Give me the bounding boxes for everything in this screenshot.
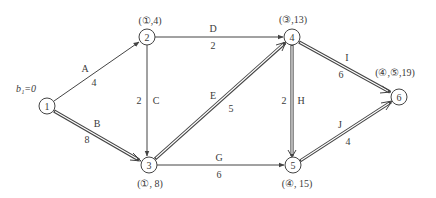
node-2-label: 2: [145, 32, 150, 43]
node-2-annotation: (①,4): [138, 15, 161, 27]
edge-g-weight: 6: [217, 169, 222, 180]
node-6-label: 6: [397, 92, 402, 103]
node-4-annotation: (③,13): [279, 14, 307, 26]
edge-a-weight: 4: [92, 77, 97, 88]
node-5: 5: [285, 157, 301, 173]
edge-e-name: E: [210, 90, 216, 101]
node-4-label: 4: [290, 32, 295, 43]
node-5-label: 5: [291, 160, 296, 171]
edge-c: 2 C: [137, 45, 160, 156]
node-1: 1: [39, 98, 55, 114]
node-5-annotation: (④, 15): [282, 178, 313, 190]
network-diagram: A 4 B 8 2 C D 2 E 5 G 6 2 H: [0, 0, 436, 198]
edge-d-weight: 2: [211, 40, 216, 51]
edge-d: D 2: [155, 23, 283, 51]
start-label: b₁=0: [16, 83, 36, 94]
node-1-label: 1: [45, 101, 50, 112]
edge-e: E 5: [155, 42, 286, 159]
edge-i-weight: 6: [339, 69, 344, 80]
edge-h: 2 H: [282, 45, 305, 157]
node-6-annotation: (④,⑤,19): [375, 67, 415, 79]
edge-j-weight: 4: [346, 136, 351, 147]
edge-d-name: D: [209, 23, 216, 34]
edge-b-weight: 8: [85, 134, 90, 145]
edge-j: J 4: [300, 101, 392, 161]
edge-j-name: J: [338, 119, 342, 130]
node-4: 4: [284, 29, 300, 45]
edge-h-name: H: [297, 95, 304, 106]
node-6: 6: [391, 89, 407, 105]
node-3-label: 3: [147, 160, 152, 171]
edge-a: A 4: [54, 42, 139, 101]
edge-g-name: G: [215, 152, 222, 163]
node-3: 3: [141, 157, 157, 173]
edge-b-name: B: [94, 118, 101, 129]
edge-a-name: A: [81, 63, 89, 74]
edge-h-weight: 2: [282, 95, 287, 106]
edge-g: G 6: [157, 152, 284, 180]
edge-b: B 8: [54, 111, 141, 161]
edge-e-weight: 5: [229, 103, 234, 114]
node-2: 2: [139, 29, 155, 45]
edge-c-name: C: [153, 95, 160, 106]
node-3-annotation: (①, 8): [137, 178, 163, 190]
edge-c-weight: 2: [137, 95, 142, 106]
edge-i-name: I: [345, 52, 348, 63]
